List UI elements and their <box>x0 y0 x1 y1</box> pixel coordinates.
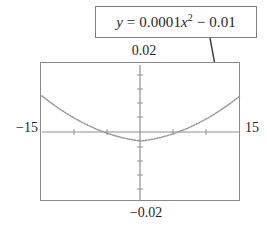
plot-frame <box>40 62 240 201</box>
equation-operator: − <box>197 14 206 30</box>
equation-text: y = 0.0001x2 − 0.01 <box>116 15 236 30</box>
plot-canvas <box>41 63 241 202</box>
y-max-label: 0.02 <box>120 43 168 59</box>
equation-exponent: 2 <box>188 12 193 23</box>
x-max-label: 15 <box>245 120 267 136</box>
y-min-label: −0.02 <box>118 205 174 221</box>
equation-equals: = <box>127 14 136 30</box>
equation-coefficient: 0.0001 <box>139 14 181 30</box>
graphing-calculator-figure: y = 0.0001x2 − 0.01 0.02 <box>0 0 267 228</box>
equation-lhs: y <box>116 14 123 30</box>
equation-variable: x <box>181 14 188 30</box>
x-min-label: −15 <box>6 120 38 136</box>
equation-callout-box: y = 0.0001x2 − 0.01 <box>95 6 257 38</box>
equation-constant: 0.01 <box>209 14 236 30</box>
